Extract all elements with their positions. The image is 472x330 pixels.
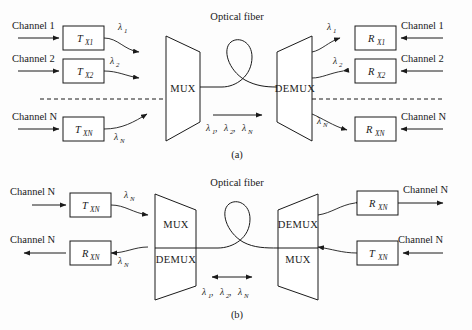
channel-label-b-right-bottom: Channel N [398,234,444,245]
center-lambda-a-sep-2: , [233,123,235,133]
fiber-link-a-left-1 [104,38,139,52]
device-sublabel-a-right-2: X2 [376,71,386,80]
center-wavelengths-a: λ 1 , λ 2 , λ N [205,123,253,135]
device-box-a-left-2[interactable] [63,59,104,83]
wavelength-label-a-right-1: λ [326,22,331,32]
center-lambda-a-sep-1: , [215,123,217,133]
center-lambda-b-sep-2: , [229,287,231,297]
channel-label-b-left-bottom: Channel N [10,234,56,245]
center-wavelengths-b: λ 1 , λ 2 , λ N [201,287,249,299]
panel-b: Optical fiber Channel N T XN λ N Channel… [10,177,449,321]
device-label-a-right-2: R [367,66,375,77]
optical-fiber-path-b [196,202,278,248]
wavelength-sublabel-b-left-top: N [129,195,135,202]
center-lambda-a-n-sym: λ [241,123,246,133]
left-unit-b[interactable] [155,194,196,300]
panel-caption-a: (a) [231,149,243,161]
device-sublabel-a-left-n: XN [82,129,94,138]
device-label-a-right-1: R [367,33,375,44]
device-box-a-right-2[interactable] [355,59,396,83]
wavelength-sublabel-a-right-1: 1 [333,27,336,34]
center-lambda-b-n-sym: λ [237,287,242,297]
panel-a: Optical fiber Channel 1 T X1 λ 1 Channel… [12,11,447,161]
wavelength-sublabel-b-left-bottom: N [123,261,129,268]
device-sublabel-b-left-top: XN [89,205,101,214]
wavelength-label-a-right-n: λ [316,116,321,126]
fiber-label-b: Optical fiber [210,177,264,188]
fiber-label-a: Optical fiber [210,11,264,22]
wavelength-label-a-left-n: λ [113,132,118,142]
diagram-canvas: Optical fiber Channel 1 T X1 λ 1 Channel… [0,0,472,330]
device-label-b-right-top: R [368,198,376,209]
channel-label-a-right-1: Channel 1 [401,20,444,31]
center-lambda-a-1-sym: λ [205,123,210,133]
fiber-link-b-left-bottom [111,247,148,253]
center-lambda-b-n-sub: N [243,292,249,299]
channel-label-a-left-1: Channel 1 [12,20,55,31]
wavelength-label-a-right-2: λ [332,56,337,66]
device-box-a-right-1[interactable] [355,26,396,50]
device-sublabel-a-left-2: X2 [84,71,94,80]
wavelength-sublabel-a-right-2: 2 [339,61,343,68]
center-lambda-a-n-sub: N [247,128,253,135]
wavelength-sublabel-a-left-n: N [119,137,125,144]
device-box-a-left-1[interactable] [63,26,104,50]
left-unit-top-label-b: MUX [163,219,189,230]
right-unit-b[interactable] [278,194,318,300]
device-sublabel-b-left-bottom: XN [89,253,101,262]
center-lambda-a-2-sym: λ [223,123,228,133]
wavelength-sublabel-a-right-n: N [322,121,328,128]
fiber-link-a-left-n [104,114,147,129]
device-sublabel-b-right-top: XN [377,203,389,212]
right-unit-top-label-b: DEMUX [278,219,319,230]
channel-label-a-right-2: Channel 2 [401,53,444,64]
device-label-b-left-bottom: R [81,248,89,259]
fiber-link-b-right-bottom [318,247,357,253]
wavelength-label-b-left-bottom: λ [117,256,122,266]
wavelength-label-a-left-1: λ [117,22,122,32]
channel-label-b-right-top: Channel N [403,184,449,195]
device-sublabel-a-left-1: X1 [84,38,93,47]
fiber-link-b-right-top [318,203,355,215]
panel-caption-b: (b) [231,309,244,321]
device-sublabel-b-right-bottom: XN [377,253,389,262]
demux-label-a: DEMUX [275,83,316,94]
center-lambda-b-sep-1: , [211,287,213,297]
fiber-link-a-right-2 [312,71,343,78]
optical-fiber-path-a [200,40,277,87]
center-lambda-b-2-sym: λ [219,287,224,297]
center-lambda-b-1-sym: λ [201,287,206,297]
channel-label-a-left-n: Channel N [12,111,58,122]
right-unit-bottom-label-b: MUX [285,254,311,265]
channel-label-a-right-n: Channel N [401,111,447,122]
channel-label-b-left-top: Channel N [10,186,56,197]
device-sublabel-a-right-n: XN [374,129,386,138]
mux-label-a: MUX [170,83,196,94]
left-unit-bottom-label-b: DEMUX [156,254,197,265]
wavelength-sublabel-a-left-1: 1 [124,27,127,34]
fiber-link-b-left-top [111,205,148,215]
wavelength-sublabel-a-left-2: 2 [116,61,120,68]
wdm-figure: Optical fiber Channel 1 T X1 λ 1 Channel… [0,0,472,330]
fiber-link-a-right-1 [312,38,340,52]
wavelength-label-b-left-top: λ [123,190,128,200]
fiber-link-a-left-2 [104,71,139,78]
channel-label-a-left-2: Channel 2 [12,53,55,64]
device-sublabel-a-right-1: X1 [376,38,385,47]
wavelength-label-a-left-2: λ [109,56,114,66]
device-label-a-right-n: R [365,124,373,135]
